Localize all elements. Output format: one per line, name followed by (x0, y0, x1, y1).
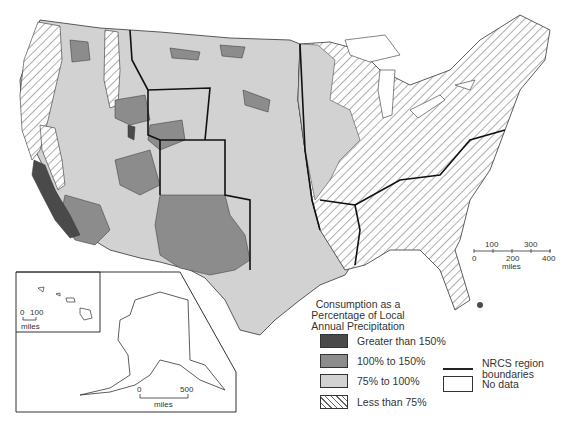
region-dark-florida (477, 302, 483, 308)
legend-label: No data (482, 378, 519, 390)
main-scale-tick-0: 0 (472, 254, 477, 263)
main-scale-unit: miles (502, 262, 521, 271)
legend-item-75-100: 75% to 100% (320, 374, 419, 388)
legend-item-less-75: Less than 75% (320, 395, 426, 409)
legend-swatch-dark (320, 334, 348, 348)
region-mid-2 (115, 95, 150, 125)
legend-title: Consumption as a Percentage of Local Ann… (308, 299, 408, 332)
legend-item-100-150: 100% to 150% (320, 354, 425, 368)
main-scale: 100 300 0 200 400 miles (472, 240, 556, 271)
legend-label: Less than 75% (357, 396, 426, 408)
hawaii-scale-tick-1: 100 (30, 308, 44, 317)
region-dark-2 (128, 125, 135, 140)
main-scale-tick-400: 400 (542, 254, 556, 263)
main-scale-tick-300: 300 (524, 240, 538, 249)
hawaii-scale-tick-0: 0 (20, 308, 25, 317)
legend-label: 75% to 100% (357, 375, 419, 387)
legend-label: 100% to 150% (357, 355, 425, 367)
alaska-scale-unit: miles (154, 400, 173, 409)
legend-boundary-line (443, 368, 473, 370)
legend-item-no-data: No data (443, 376, 519, 392)
legend-swatch-light (320, 374, 348, 388)
legend-title-line: Annual Precipitation (308, 321, 408, 332)
hawaii-scale-unit: miles (21, 322, 40, 331)
legend-swatch-mid (320, 354, 348, 368)
main-scale-tick-100: 100 (485, 240, 499, 249)
alaska-scale-tick-1: 500 (180, 385, 194, 394)
region-mid-7 (220, 45, 245, 58)
legend-item-greater-150: Greater than 150% (320, 334, 446, 348)
region-mid-1 (70, 40, 90, 62)
alaska-scale-tick-0: 0 (137, 385, 142, 394)
inset-frame (16, 272, 236, 412)
legend-swatch-hatched (320, 395, 348, 409)
legend-swatch-no-data (443, 376, 473, 392)
legend-label: Greater than 150% (357, 335, 446, 347)
